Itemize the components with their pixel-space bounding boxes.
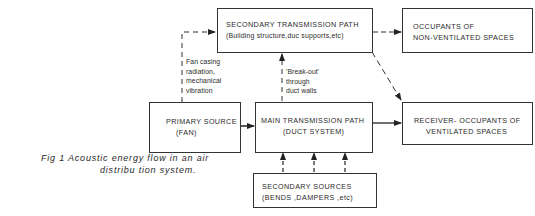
label-line: mechanical (186, 76, 221, 86)
node-receiver: RECEIVER- OCCUPANTS OF VENTILATED SPACES (402, 102, 533, 145)
node-secondary-sources: SECONDARY SOURCES (BENDS ,DAMPERS ,etc) (253, 173, 377, 208)
figure-caption: Fig 1 Acoustic energy flow in an air dis… (41, 152, 209, 176)
caption-line-2: distribu tion system. (41, 164, 209, 176)
label-line: duct walls (286, 86, 319, 96)
node-main-transmission: MAIN TRANSMISSION PATH (DUCT SYSTEM) (255, 102, 373, 153)
node-primary-source: PRIMARY SOURCE (FAN) (149, 102, 241, 153)
label-line: vibration (186, 86, 221, 96)
label-line: 'Break-out' (286, 67, 319, 77)
node-title: SECONDARY TRANSMISSION PATH (226, 19, 372, 30)
label-line: radiation, (186, 67, 221, 77)
node-subtitle: NON-VENTILATED SPACES (413, 32, 532, 43)
edge-label-fan-casing: Fan casing radiation, mechanical vibrati… (186, 57, 221, 95)
node-title: SECONDARY SOURCES (262, 181, 376, 192)
label-line: through (286, 77, 319, 87)
edge-label-break-out: 'Break-out' through duct walls (286, 67, 319, 96)
arrow-secondary-to-receiver (372, 52, 401, 100)
node-title: RECEIVER- OCCUPANTS OF (414, 115, 532, 126)
caption-line-1: Fig 1 Acoustic energy flow in an air (41, 152, 209, 164)
label-line: Fan casing (186, 57, 221, 67)
node-title: MAIN TRANSMISSION PATH (261, 115, 372, 126)
node-subtitle: (Building structure,duc supports,etc) (226, 30, 372, 41)
node-title: PRIMARY SOURCE (166, 116, 240, 127)
node-occupants-non-ventilated: OCCUPANTS OF NON-VENTILATED SPACES (402, 8, 533, 53)
node-subtitle: VENTILATED SPACES (414, 126, 532, 137)
node-subtitle: (FAN) (166, 127, 240, 138)
node-subtitle: (BENDS ,DAMPERS ,etc) (262, 192, 376, 203)
node-secondary-transmission: SECONDARY TRANSMISSION PATH (Building st… (217, 8, 373, 53)
node-subtitle: (DUCT SYSTEM) (261, 126, 372, 137)
node-title: OCCUPANTS OF (413, 21, 532, 32)
